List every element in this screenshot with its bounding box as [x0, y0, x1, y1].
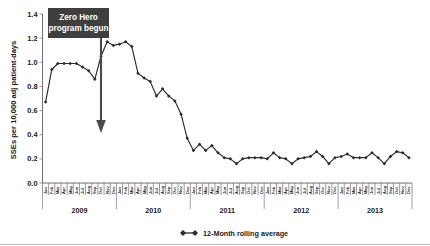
x-tick-label: Jun — [222, 186, 227, 194]
year-label: 2012 — [293, 206, 309, 215]
x-tick-label: Jan — [265, 186, 270, 194]
x-tick-label: Dec — [332, 186, 337, 194]
y-axis-label: SSEs per 10,000 adj patient-days — [9, 41, 18, 160]
x-tick-label: Feb — [271, 186, 276, 194]
y-tick-label: 0.6 — [27, 106, 37, 115]
x-tick-label: Nov — [105, 186, 110, 194]
x-tick-label: Nov — [400, 186, 405, 194]
y-tick-label: 0.8 — [27, 82, 37, 91]
x-tick-label: Mar — [277, 186, 282, 194]
x-tick-label: May — [215, 185, 220, 194]
x-tick-label: Nov — [326, 186, 331, 194]
x-tick-label: Oct — [98, 187, 103, 194]
x-tick-label: Nov — [178, 186, 183, 194]
x-tick-label: Dec — [259, 186, 264, 194]
x-tick-label: Sep — [92, 186, 97, 194]
x-tick-label: May — [68, 185, 73, 194]
x-tick-label: Mar — [351, 186, 356, 194]
x-tick-label: Jul — [376, 188, 381, 194]
x-tick-label: Oct — [246, 187, 251, 194]
x-tick-label: Jan — [43, 186, 48, 194]
x-tick-label: Mar — [129, 186, 134, 194]
x-tick-label: Jun — [74, 186, 79, 194]
x-tick-label: Aug — [382, 186, 387, 194]
x-tick-label: Feb — [197, 186, 202, 194]
annotation-label-line2: program begun — [48, 24, 108, 33]
x-tick-label: Feb — [123, 186, 128, 194]
x-tick-label: May — [289, 185, 294, 194]
annotation-label-line1: Zero Hero — [59, 13, 98, 22]
x-tick-label: Sep — [166, 186, 171, 194]
x-tick-label: Apr — [61, 187, 66, 194]
x-tick-label: Jul — [228, 188, 233, 194]
x-tick-label: Nov — [252, 186, 257, 194]
y-tick-label: 1.0 — [27, 58, 37, 67]
x-tick-label: Jan — [117, 186, 122, 194]
y-tick-label: 1.4 — [27, 10, 38, 19]
x-tick-label: Dec — [185, 186, 190, 194]
x-tick-label: Jul — [154, 188, 159, 194]
x-tick-label: Aug — [86, 186, 91, 194]
x-tick-label: Aug — [234, 186, 239, 194]
x-tick-label: Oct — [394, 187, 399, 194]
x-tick-label: Jan — [339, 186, 344, 194]
x-tick-label: Aug — [308, 186, 313, 194]
x-tick-label: May — [142, 185, 147, 194]
year-label: 2009 — [71, 206, 87, 215]
x-tick-label: Jun — [148, 186, 153, 194]
year-label: 2013 — [367, 206, 383, 215]
x-tick-label: Feb — [345, 186, 350, 194]
x-tick-label: Apr — [357, 187, 362, 194]
x-tick-label: Oct — [172, 187, 177, 194]
x-tick-label: May — [363, 185, 368, 194]
year-label: 2010 — [145, 206, 161, 215]
x-tick-label: Jun — [295, 186, 300, 194]
x-tick-label: Sep — [240, 186, 245, 194]
x-tick-label: Jan — [191, 186, 196, 194]
x-tick-label: Apr — [135, 187, 140, 194]
x-tick-label: Mar — [55, 186, 60, 194]
x-tick-label: Oct — [320, 187, 325, 194]
x-tick-label: Sep — [314, 186, 319, 194]
x-tick-label: Jul — [302, 188, 307, 194]
y-tick-label: 0.2 — [27, 154, 37, 163]
x-tick-label: Aug — [160, 186, 165, 194]
legend-label: 12-Month rolling average — [203, 229, 288, 238]
x-tick-label: Dec — [111, 186, 116, 194]
x-tick-label: Apr — [209, 187, 214, 194]
chart-container: SSEs per 10,000 adj patient-days 0.00.20… — [0, 0, 430, 246]
y-axis-title: SSEs per 10,000 adj patient-days — [9, 41, 18, 160]
y-tick-label: 1.2 — [27, 34, 37, 43]
x-tick-label: Jul — [80, 188, 85, 194]
x-tick-label: Dec — [406, 186, 411, 194]
x-tick-label: Apr — [283, 187, 288, 194]
ssse-rolling-average-line-chart: SSEs per 10,000 adj patient-days 0.00.20… — [0, 0, 430, 246]
x-tick-label: Mar — [203, 186, 208, 194]
year-label: 2011 — [219, 206, 235, 215]
x-tick-label: Sep — [388, 186, 393, 194]
x-tick-label: Jun — [369, 186, 374, 194]
y-tick-label: 0.0 — [27, 179, 37, 188]
y-tick-label: 0.4 — [27, 130, 38, 139]
x-tick-label: Feb — [49, 186, 54, 194]
